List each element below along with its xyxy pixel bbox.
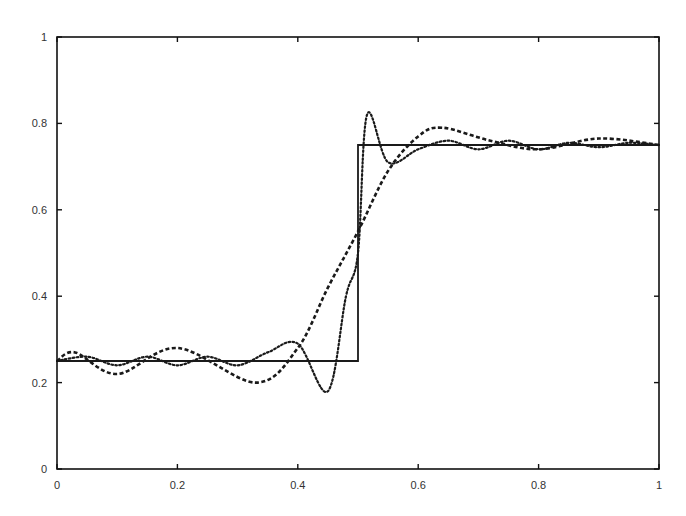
y-axis-tick-labels: 00.20.40.60.81 <box>32 31 47 475</box>
y-tick-label: 0 <box>41 463 47 475</box>
y-tick-label: 0.4 <box>32 290 47 302</box>
x-tick-label: 0.6 <box>411 479 426 491</box>
plot-series <box>57 112 659 392</box>
x-axis-tick-labels: 00.20.40.60.81 <box>54 479 662 491</box>
x-tick-label: 0 <box>54 479 60 491</box>
y-tick-label: 0.8 <box>32 117 47 129</box>
y-tick-label: 0.2 <box>32 377 47 389</box>
x-tick-label: 0.8 <box>531 479 546 491</box>
x-tick-label: 1 <box>656 479 662 491</box>
x-tick-label: 0.4 <box>290 479 305 491</box>
step-function-chart: 00.20.40.60.81 00.20.40.60.81 <box>0 0 686 516</box>
y-tick-label: 0.6 <box>32 204 47 216</box>
y-tick-label: 1 <box>41 31 47 43</box>
x-tick-label: 0.2 <box>170 479 185 491</box>
